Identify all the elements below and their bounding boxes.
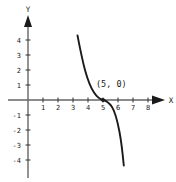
- x-tick-label-8: 8: [146, 104, 150, 112]
- y-tick-label-1: 1: [17, 82, 21, 90]
- cubic-function-graph: 1 2 3 4 5 6 7 8 4 3 2 1 -1 -2 -3 -4 Y X …: [0, 0, 176, 182]
- y-tick-label-neg4: -4: [13, 157, 21, 165]
- x-tick-label-2: 2: [56, 104, 60, 112]
- x-tick-label-5: 5: [101, 104, 105, 112]
- y-tick-label-neg2: -2: [13, 127, 21, 135]
- y-tick-label-4: 4: [17, 37, 21, 45]
- x-tick-label-4: 4: [86, 104, 90, 112]
- y-tick-label-2: 2: [17, 67, 21, 75]
- x-tick-label-6: 6: [116, 104, 120, 112]
- x-tick-label-1: 1: [41, 104, 45, 112]
- x-axis-arrowhead: [152, 96, 165, 105]
- x-tick-label-3: 3: [71, 104, 75, 112]
- y-tick-label-neg3: -3: [13, 142, 21, 150]
- y-axis-arrowhead: [24, 15, 32, 27]
- root-point-annotation: (5, 0): [96, 79, 127, 89]
- y-tick-label-neg1: -1: [13, 112, 21, 120]
- root-point-marker: [101, 98, 105, 102]
- x-axis-label: X: [169, 96, 174, 105]
- figure-container: 1 2 3 4 5 6 7 8 4 3 2 1 -1 -2 -3 -4 Y X …: [0, 0, 176, 182]
- y-axis-label: Y: [26, 5, 31, 14]
- y-tick-label-3: 3: [17, 52, 21, 60]
- x-tick-label-7: 7: [131, 104, 135, 112]
